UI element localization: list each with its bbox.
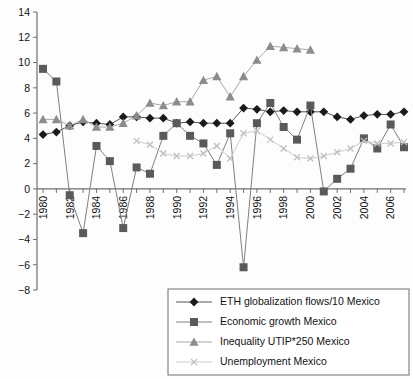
data-point-marker: [147, 142, 153, 148]
data-point-marker: [347, 165, 355, 173]
data-point-marker: [119, 224, 127, 232]
x-tick-label: 2002: [331, 196, 343, 220]
data-point-marker: [266, 99, 274, 107]
data-point-marker: [293, 107, 302, 116]
line-chart: 14121086420−2−4−6−8 19801982198419861988…: [0, 0, 413, 379]
data-point-marker: [199, 119, 208, 128]
data-point-marker: [39, 65, 47, 73]
data-point-marker: [226, 92, 235, 100]
x-tick-label: 2000: [304, 196, 316, 220]
data-point-marker: [199, 76, 208, 84]
data-point-marker: [119, 119, 128, 127]
data-point-marker: [359, 111, 368, 120]
y-tick-label: 4: [24, 132, 30, 144]
x-tick-label: 1984: [90, 196, 102, 220]
data-point-marker: [106, 157, 114, 165]
data-point-marker: [348, 145, 354, 151]
series-4: [134, 128, 407, 162]
y-tick-label: 14: [18, 6, 30, 18]
x-tick-label: 1998: [277, 196, 289, 220]
data-point-marker: [373, 110, 382, 119]
data-point-marker: [212, 72, 221, 80]
y-tick-label: −4: [18, 233, 30, 245]
data-point-marker: [146, 170, 154, 178]
data-point-marker: [333, 112, 342, 121]
x-tick-label: 2006: [384, 196, 396, 220]
data-point-marker: [79, 229, 87, 237]
y-tick-label: 2: [24, 157, 30, 169]
data-point-marker: [400, 107, 409, 116]
data-point-marker: [213, 161, 221, 169]
data-point-marker: [212, 119, 221, 128]
y-tick-label: 6: [24, 107, 30, 119]
data-point-marker: [186, 132, 194, 140]
data-point-marker: [281, 145, 287, 151]
data-point-marker: [186, 118, 195, 127]
y-axis: 14121086420−2−4−6−8: [18, 6, 37, 296]
data-point-marker: [267, 137, 273, 143]
chart-legend: ETH globalization flows/10 MexicoEconomi…: [168, 289, 409, 375]
data-point-marker: [253, 105, 262, 114]
x-tick-label: 1994: [224, 196, 236, 220]
x-tick-label: 1980: [37, 196, 49, 220]
data-point-marker: [387, 120, 395, 128]
data-point-marker: [159, 132, 167, 140]
series-layer: [38, 42, 408, 272]
data-point-marker: [39, 130, 48, 139]
data-point-marker: [346, 115, 355, 124]
y-tick-label: 10: [18, 56, 30, 68]
data-point-marker: [133, 163, 141, 171]
data-point-marker: [173, 119, 181, 127]
y-tick-label: 0: [24, 183, 30, 195]
series-1: [39, 104, 409, 139]
x-tick-label: 1992: [197, 196, 209, 220]
data-point-marker: [293, 136, 301, 144]
data-point-marker: [146, 114, 155, 123]
data-point-marker: [240, 263, 248, 271]
x-tick-label: 1996: [251, 196, 263, 220]
chart-container: 14121086420−2−4−6−8 19801982198419861988…: [0, 0, 413, 379]
legend-item-label: Inequality UTIP*250 Mexico: [220, 335, 350, 347]
legend-item-label: ETH globalization flows/10 Mexico: [220, 295, 380, 307]
data-point-marker: [334, 149, 340, 155]
square-icon: [190, 318, 198, 326]
data-point-marker: [92, 142, 100, 150]
data-point-marker: [306, 102, 314, 110]
legend-item-label: Economic growth Mexico: [220, 315, 337, 327]
data-point-marker: [266, 42, 275, 50]
series-2: [39, 65, 408, 271]
data-point-marker: [79, 115, 88, 123]
series-3: [38, 42, 315, 131]
data-point-marker: [319, 107, 328, 116]
data-point-marker: [253, 119, 261, 127]
x-tick-label: 2004: [358, 196, 370, 220]
data-point-marker: [134, 138, 140, 144]
data-point-marker: [386, 110, 395, 119]
data-point-marker: [159, 114, 168, 123]
y-tick-label: −8: [18, 284, 30, 296]
legend-item-label: Unemployment Mexico: [220, 355, 327, 367]
data-point-marker: [214, 143, 220, 149]
data-point-marker: [280, 123, 288, 131]
y-tick-label: 12: [18, 31, 30, 43]
data-point-marker: [279, 106, 288, 115]
data-point-marker: [52, 128, 61, 137]
y-tick-label: −6: [18, 259, 30, 271]
data-point-marker: [52, 78, 60, 86]
data-point-marker: [333, 175, 341, 183]
x-tick-label: 1988: [144, 196, 156, 220]
data-point-marker: [226, 129, 234, 137]
data-point-marker: [199, 139, 207, 147]
y-tick-label: 8: [24, 82, 30, 94]
x-axis: 1980198219841986198819901992199419961998…: [37, 189, 406, 219]
x-tick-label: 1990: [171, 196, 183, 220]
data-point-marker: [66, 191, 74, 199]
data-point-marker: [145, 98, 154, 106]
data-point-marker: [320, 187, 328, 195]
y-tick-label: −2: [18, 208, 30, 220]
